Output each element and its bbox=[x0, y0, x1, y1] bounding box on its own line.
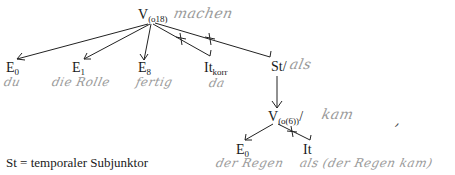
sub-child-annotation: als (der Regen kam) bbox=[299, 156, 434, 170]
sub-root-annotation: kam bbox=[320, 106, 355, 122]
child-label: E bbox=[236, 142, 245, 157]
sub-child-it: It bbox=[303, 143, 312, 157]
child-st: St/ bbox=[271, 60, 287, 74]
child-label: It bbox=[303, 142, 312, 157]
root-annotation: machen bbox=[172, 5, 234, 21]
sub-root-suffix: / bbox=[299, 109, 303, 124]
child-label: E bbox=[72, 60, 81, 75]
child-label: It bbox=[204, 60, 213, 75]
sub-child-annotation: der Regen bbox=[215, 156, 285, 170]
sub-root-node: V(o(6))/ bbox=[268, 110, 303, 128]
sub-root-subscript: (o(6)) bbox=[278, 116, 299, 126]
child-annotation: fertig bbox=[135, 75, 175, 89]
root-subscript: (o18) bbox=[148, 14, 168, 24]
child-annotation: die Rolle bbox=[51, 75, 112, 89]
sub-root-label: V bbox=[268, 109, 278, 124]
child-annotation: als bbox=[288, 56, 313, 72]
child-annotation: du bbox=[3, 75, 22, 89]
child-label: E bbox=[138, 60, 147, 75]
root-label: V bbox=[138, 7, 148, 22]
legend-text: St = temporaler Subjunktor bbox=[6, 155, 148, 171]
child-label: St/ bbox=[271, 59, 287, 74]
child-annotation: da bbox=[208, 76, 227, 90]
root-node: V(o18) bbox=[138, 8, 168, 26]
child-label: E bbox=[6, 60, 15, 75]
